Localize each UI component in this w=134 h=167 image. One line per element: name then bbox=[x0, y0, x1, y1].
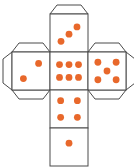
right-face-pip-4 bbox=[94, 76, 101, 83]
center-face-pip-6 bbox=[75, 74, 82, 81]
bottom-upper-face-pip-1 bbox=[57, 97, 64, 104]
center-face-pip-1 bbox=[56, 61, 63, 68]
left-face-pip-1 bbox=[20, 75, 27, 82]
right-face-pip-2 bbox=[113, 59, 120, 66]
top-face-pip-2 bbox=[66, 31, 73, 38]
bottom-lower-face bbox=[50, 128, 88, 166]
center-face bbox=[50, 52, 88, 90]
bottom-upper-face-pip-4 bbox=[74, 114, 81, 121]
top-face-pip-1 bbox=[58, 38, 65, 45]
left-face-pip-2 bbox=[35, 60, 42, 67]
glue-tab-top-right bbox=[88, 43, 126, 52]
bottom-upper-face bbox=[50, 90, 88, 128]
glue-tab-top-left bbox=[12, 43, 50, 52]
center-face-pip-3 bbox=[75, 61, 82, 68]
center-face-pip-2 bbox=[66, 61, 73, 68]
right-face-pip-5 bbox=[113, 76, 120, 83]
cube-net-diagram bbox=[0, 0, 134, 167]
center-face-pip-5 bbox=[66, 74, 73, 81]
right-face-pip-3 bbox=[104, 68, 111, 75]
bottom-upper-face-pip-3 bbox=[57, 114, 64, 121]
center-face-pip-4 bbox=[56, 74, 63, 81]
right-face-pip-1 bbox=[94, 59, 101, 66]
glue-tab-bottom-right bbox=[88, 90, 126, 99]
bottom-lower-face-pip-1 bbox=[66, 140, 73, 147]
glue-tab-left-outer bbox=[3, 52, 12, 90]
top-face-pip-3 bbox=[74, 24, 81, 31]
glue-tab-right-outer bbox=[126, 52, 134, 90]
left-face bbox=[12, 52, 50, 90]
glue-tab-top-center bbox=[50, 5, 88, 14]
cube-net-svg bbox=[0, 0, 134, 167]
bottom-upper-face-pip-2 bbox=[74, 97, 81, 104]
glue-tab-bottom-left bbox=[12, 90, 50, 99]
